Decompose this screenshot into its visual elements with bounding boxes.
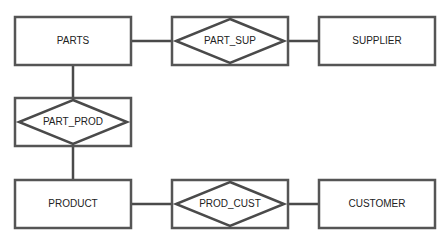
relationship-label: PART_SUP xyxy=(204,35,256,46)
er-diagram: PARTS PART_SUP SUPPLIER PART_PROD PRODUC… xyxy=(0,0,447,249)
entity-label: PARTS xyxy=(57,35,90,46)
entity-label: SUPPLIER xyxy=(352,35,401,46)
relationship-label: PART_PROD xyxy=(43,116,103,127)
entity-parts[interactable]: PARTS xyxy=(15,17,131,65)
entity-label: CUSTOMER xyxy=(348,198,405,209)
relationship-prod-cust[interactable]: PROD_CUST xyxy=(172,180,288,228)
relationship-label: PROD_CUST xyxy=(199,198,261,209)
entity-supplier[interactable]: SUPPLIER xyxy=(319,17,435,65)
relationship-part-sup[interactable]: PART_SUP xyxy=(172,17,288,65)
entity-product[interactable]: PRODUCT xyxy=(15,180,131,228)
entity-customer[interactable]: CUSTOMER xyxy=(319,180,435,228)
entity-label: PRODUCT xyxy=(48,198,97,209)
relationship-part-prod[interactable]: PART_PROD xyxy=(15,98,131,146)
